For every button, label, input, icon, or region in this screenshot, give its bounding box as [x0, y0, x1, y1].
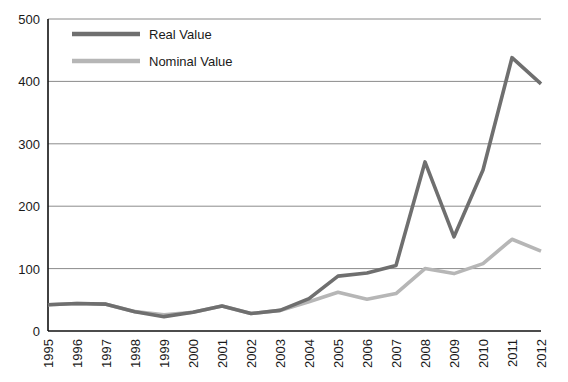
- y-axis-tick-labels: 0100200300400500: [18, 12, 40, 339]
- x-tick-label-2007: 2007: [389, 339, 404, 368]
- x-tick-label-2011: 2011: [505, 339, 520, 367]
- series-line-real-value: [48, 58, 541, 317]
- y-tick-label-100: 100: [18, 262, 40, 277]
- legend-label-nominal-value: Nominal Value: [149, 54, 233, 69]
- x-tick-label-1995: 1995: [41, 339, 56, 368]
- x-tick-label-1997: 1997: [99, 339, 114, 368]
- x-tick-label-2002: 2002: [244, 339, 259, 368]
- y-tick-label-0: 0: [33, 324, 40, 339]
- chart-legend: Real Value Nominal Value: [72, 27, 233, 69]
- y-tick-label-500: 500: [18, 12, 40, 27]
- x-tick-label-1998: 1998: [128, 339, 143, 368]
- x-tick-label-2000: 2000: [186, 339, 201, 368]
- y-tick-label-400: 400: [18, 74, 40, 89]
- x-tick-label-2006: 2006: [360, 339, 375, 368]
- x-tick-label-2009: 2009: [447, 339, 462, 368]
- x-tick-label-2004: 2004: [302, 339, 317, 368]
- gridlines-group: [48, 19, 541, 269]
- x-tick-label-2008: 2008: [418, 339, 433, 368]
- line-chart: 0100200300400500 19951996199719981999200…: [0, 0, 568, 382]
- x-tick-label-2003: 2003: [273, 339, 288, 368]
- y-tick-label-200: 200: [18, 199, 40, 214]
- x-tick-label-2001: 2001: [215, 339, 230, 368]
- x-axis-tick-labels: 1995199619971998199920002001200220032004…: [41, 339, 549, 368]
- y-tick-label-300: 300: [18, 137, 40, 152]
- x-tick-label-2010: 2010: [476, 339, 491, 368]
- x-tick-label-1999: 1999: [157, 339, 172, 368]
- x-tick-label-1996: 1996: [70, 339, 85, 368]
- chart-canvas: 0100200300400500 19951996199719981999200…: [0, 0, 568, 382]
- x-tick-label-2012: 2012: [534, 339, 549, 368]
- data-series-group: [48, 58, 541, 317]
- legend-label-real-value: Real Value: [149, 27, 212, 42]
- x-tick-label-2005: 2005: [331, 339, 346, 368]
